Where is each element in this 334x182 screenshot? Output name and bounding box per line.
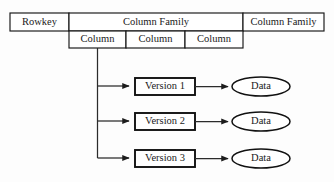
data-2-label: Data [251, 115, 271, 126]
table-row-1: Rowkey Column Family Column Family [10, 13, 324, 31]
data-3-label: Data [251, 152, 271, 163]
cell-column-family-2-label: Column Family [250, 16, 317, 27]
version-row-2: Version 2 Data [135, 112, 290, 131]
cell-column-family-1-label: Column Family [123, 16, 190, 27]
cell-column-3-label: Column [197, 33, 232, 44]
data-1-label: Data [251, 80, 271, 91]
cell-rowkey-label: Rowkey [22, 16, 58, 27]
version-1-label: Version 1 [145, 80, 185, 91]
tree-connector [98, 48, 130, 158]
version-3-label: Version 3 [145, 152, 185, 163]
version-row-1: Version 1 Data [135, 77, 290, 96]
cell-column-2-label: Column [139, 33, 174, 44]
version-2-label: Version 2 [145, 115, 185, 126]
version-row-3: Version 3 Data [135, 149, 290, 168]
cell-column-1-label: Column [81, 33, 116, 44]
table-row-2: Column Column Column [69, 31, 243, 48]
diagram-canvas: Rowkey Column Family Column Family Colum… [0, 0, 334, 182]
hbase-data-model-diagram: Rowkey Column Family Column Family Colum… [0, 0, 334, 182]
